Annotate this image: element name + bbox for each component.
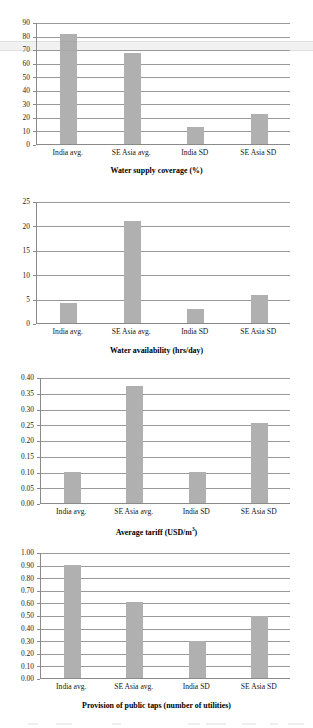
y-tick-label: 0.70 (0, 587, 34, 594)
gridline (41, 378, 290, 379)
x-tick-label: India avg. (40, 508, 103, 516)
x-tick-label: SE Asia SD (227, 149, 291, 157)
y-tick-mark (33, 64, 36, 65)
y-tick-mark (33, 91, 36, 92)
plot-area-4: Provision of public taps (number of util… (0, 545, 313, 728)
y-tick-mark (33, 23, 36, 24)
y-tick-mark (33, 324, 36, 325)
y-tick-mark (37, 654, 40, 655)
y-tick-mark (33, 131, 36, 132)
axes-4 (40, 553, 290, 679)
y-tick-mark (37, 441, 40, 442)
figure-page: Water supply coverage (%) 01020304050607… (0, 0, 313, 728)
bar (124, 53, 141, 145)
y-tick-label: 80 (0, 33, 30, 40)
x-axis-title-3-prefix: Average tariff (USD/m (116, 528, 192, 537)
chart-panel-1: Water supply coverage (%) 01020304050607… (0, 0, 313, 185)
bar (60, 303, 77, 323)
y-tick-mark (37, 410, 40, 411)
x-tick-label: SE Asia avg. (100, 149, 164, 157)
y-tick-label: 10 (0, 128, 30, 135)
gridline (41, 410, 290, 411)
y-tick-label: 0.90 (0, 562, 34, 569)
bar (251, 295, 268, 323)
y-tick-mark (33, 300, 36, 301)
chart-panel-2: Water availability (hrs/day) 0510152025I… (0, 185, 313, 365)
y-tick-mark (37, 394, 40, 395)
plot-area-1: Water supply coverage (%) 01020304050607… (0, 0, 313, 185)
y-tick-label: 5 (0, 296, 30, 303)
bar (126, 386, 143, 503)
y-tick-label: 70 (0, 46, 30, 53)
y-tick-label: 0.00 (0, 500, 34, 507)
y-tick-mark (37, 641, 40, 642)
x-tick-label: SE Asia avg. (100, 328, 164, 336)
x-axis-title-3-suffix: ) (195, 528, 198, 537)
y-tick-label: 60 (0, 60, 30, 67)
x-axis-title-1: Water supply coverage (%) (0, 166, 313, 175)
y-tick-label: 0.15 (0, 453, 34, 460)
y-tick-label: 20 (0, 114, 30, 121)
bar (64, 472, 81, 504)
bar (126, 602, 143, 678)
bar (64, 565, 81, 678)
y-tick-mark (37, 629, 40, 630)
y-tick-mark (33, 118, 36, 119)
y-tick-label: 0 (0, 141, 30, 148)
y-tick-mark (37, 553, 40, 554)
x-tick-label: SE Asia avg. (103, 508, 166, 516)
y-tick-mark (37, 578, 40, 579)
y-tick-mark (37, 488, 40, 489)
x-tick-label: India avg. (36, 149, 100, 157)
y-tick-mark (37, 591, 40, 592)
y-tick-mark (33, 145, 36, 146)
gridline (37, 202, 290, 203)
y-tick-mark (33, 37, 36, 38)
y-tick-label: 0.20 (0, 650, 34, 657)
axes-2 (36, 202, 290, 324)
y-tick-label: 0.30 (0, 406, 34, 413)
y-tick-mark (33, 77, 36, 78)
y-tick-label: 25 (0, 198, 30, 205)
axes-3 (40, 378, 290, 504)
bar (251, 616, 268, 678)
chart-panel-4: Provision of public taps (number of util… (0, 545, 313, 728)
y-tick-mark (37, 566, 40, 567)
bar (189, 472, 206, 503)
axes-1 (36, 23, 290, 145)
y-tick-label: 0.40 (0, 374, 34, 381)
x-tick-label: SE Asia SD (227, 328, 291, 336)
x-tick-label: SE Asia SD (228, 683, 291, 691)
x-axis-title-2: Water availability (hrs/day) (0, 346, 313, 355)
y-tick-mark (37, 504, 40, 505)
x-axis-title-3: Average tariff (USD/m3) (0, 526, 313, 537)
x-tick-label: India SD (163, 328, 227, 336)
x-tick-label: India avg. (40, 683, 103, 691)
y-tick-mark (33, 202, 36, 203)
bar (187, 309, 204, 323)
bar (251, 423, 268, 503)
y-tick-label: 40 (0, 87, 30, 94)
y-tick-label: 0.10 (0, 663, 34, 670)
y-tick-label: 0.30 (0, 638, 34, 645)
y-tick-label: 0.00 (0, 675, 34, 682)
y-tick-mark (33, 226, 36, 227)
y-tick-label: 0 (0, 320, 30, 327)
chart-panel-3: Average tariff (USD/m3) 0.000.050.100.15… (0, 365, 313, 545)
x-tick-label: SE Asia SD (228, 508, 291, 516)
bar (189, 641, 206, 678)
y-tick-label: 0.40 (0, 625, 34, 632)
y-tick-label: 90 (0, 19, 30, 26)
gridline (37, 275, 290, 276)
gridline (37, 23, 290, 24)
y-tick-mark (37, 616, 40, 617)
y-tick-label: 0.25 (0, 422, 34, 429)
gridline (37, 226, 290, 227)
y-tick-label: 0.60 (0, 600, 34, 607)
gridline (41, 394, 290, 395)
y-tick-label: 15 (0, 247, 30, 254)
y-tick-label: 30 (0, 101, 30, 108)
bar (187, 127, 204, 144)
y-tick-label: 10 (0, 272, 30, 279)
y-tick-label: 0.05 (0, 485, 34, 492)
